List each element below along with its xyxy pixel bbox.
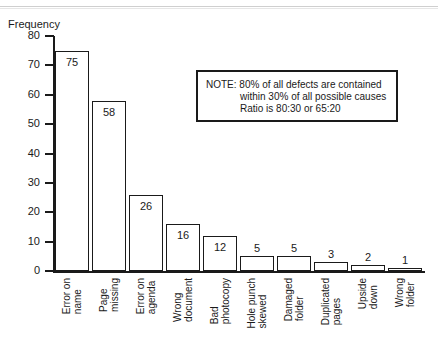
- note-text-line: NOTE: 80% of all defects are contained: [206, 79, 386, 91]
- note-text-line: Ratio is 80:30 or 65:20: [206, 103, 386, 115]
- category-label-line: Bad: [209, 278, 220, 324]
- bar: [277, 256, 311, 271]
- category-label-line: Wrong: [172, 278, 183, 322]
- x-axis-category-label: Badphotocopy: [209, 278, 231, 324]
- bar-value-label: 16: [166, 230, 200, 241]
- x-axis-category-label: Hole punchskewed: [246, 278, 268, 329]
- bar: [314, 262, 348, 271]
- category-label-line: photocopy: [220, 278, 231, 324]
- bar-value-label: 12: [203, 242, 237, 253]
- bar-value-label: 1: [388, 255, 422, 266]
- bar-value-label: 75: [55, 57, 89, 68]
- bar-value-label: 3: [314, 249, 348, 260]
- category-label-line: Duplicated: [320, 278, 331, 325]
- category-label-line: Damaged: [283, 278, 294, 321]
- category-label-line: folder: [405, 278, 416, 307]
- category-label-line: agenda: [146, 278, 157, 314]
- category-label-line: folder: [294, 278, 305, 321]
- bar-value-label: 5: [277, 243, 311, 254]
- bar-value-label: 5: [240, 243, 274, 254]
- x-axis-category-label: Wrongfolder: [394, 278, 416, 307]
- x-axis-category-label: Error onname: [61, 278, 83, 314]
- category-label-line: Page: [98, 278, 109, 312]
- x-axis-category-label: Pagemissing: [98, 278, 120, 312]
- bar-value-label: 58: [92, 107, 126, 118]
- category-label-line: Error on: [61, 278, 72, 314]
- bar: [351, 265, 385, 271]
- category-label-line: Wrong: [394, 278, 405, 307]
- pareto-chart-screenshot: Frequency 01020304050607080 755826161255…: [0, 0, 438, 343]
- x-axis-category-label: Wrongdocument: [172, 278, 194, 322]
- bar-value-label: 2: [351, 252, 385, 263]
- category-label-line: skewed: [257, 278, 268, 329]
- bar: [240, 256, 274, 271]
- bar: [388, 268, 422, 271]
- x-axis-category-label: Error onagenda: [135, 278, 157, 314]
- x-axis-category-label: Upsidedown: [357, 278, 379, 309]
- category-label-line: Error on: [135, 278, 146, 314]
- category-label-line: document: [183, 278, 194, 322]
- category-label-line: missing: [109, 278, 120, 312]
- bar-value-label: 26: [129, 201, 163, 212]
- note-text-line: within 30% of all possible causes: [206, 91, 386, 103]
- category-label-line: down: [368, 278, 379, 309]
- category-label-line: Upside: [357, 278, 368, 309]
- x-axis-category-label: Damagedfolder: [283, 278, 305, 321]
- category-label-line: pages: [331, 278, 342, 325]
- note-annotation-text: NOTE: 80% of all defects are containedwi…: [206, 79, 386, 115]
- x-axis-category-label: Duplicatedpages: [320, 278, 342, 325]
- bar: [92, 101, 126, 271]
- note-annotation-box: NOTE: 80% of all defects are containedwi…: [196, 70, 398, 122]
- bar: [55, 51, 89, 271]
- category-label-line: name: [72, 278, 83, 314]
- category-label-line: Hole punch: [246, 278, 257, 329]
